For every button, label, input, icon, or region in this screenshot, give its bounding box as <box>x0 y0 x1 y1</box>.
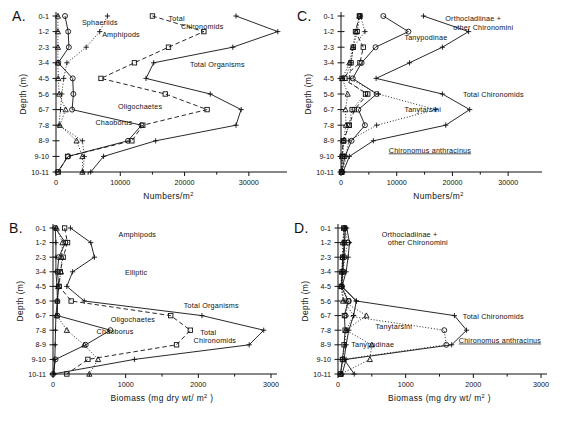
annotation-amphipods: Amphipods <box>118 230 156 239</box>
y-tick-label: 8-9 <box>36 340 46 349</box>
data-point <box>233 123 238 128</box>
x-tick-label: 0 <box>339 178 343 187</box>
data-point <box>208 91 213 96</box>
data-point <box>374 76 379 81</box>
series-line <box>91 16 278 172</box>
annotation-total-chironomids: Total Chironomids <box>463 312 524 321</box>
y-tick-label: 10-11 <box>31 168 49 177</box>
x-tick-label: 1000 <box>398 380 414 389</box>
y-tick-label: 7-8 <box>36 326 46 335</box>
panel-a: A.0-11-22-33-44-55-66-77-88-99-1010-11De… <box>0 0 293 213</box>
data-point <box>233 13 238 18</box>
series-line <box>59 228 190 374</box>
x-tick-label: 1000 <box>118 380 134 389</box>
panel-letter: A. <box>12 8 26 24</box>
series-line <box>342 228 467 374</box>
y-tick-label: 9-10 <box>320 152 334 161</box>
y-tick-label: 8-9 <box>324 136 334 145</box>
data-point <box>51 371 56 376</box>
x-axis-title: Numbers/m2 <box>413 191 463 201</box>
annotation-chaoborus: Chaoborus <box>97 327 134 336</box>
annotation-oligochaetes: Oligochaetes <box>111 315 156 324</box>
annotation-total-organisms: Total Organisms <box>190 60 245 69</box>
data-point <box>61 76 66 81</box>
y-tick-label: 6-7 <box>324 105 334 114</box>
y-axis-title: Depth (m) <box>300 281 310 322</box>
y-tick-label: 7-8 <box>324 121 334 130</box>
data-point <box>166 45 170 49</box>
data-point <box>92 255 97 260</box>
data-point <box>345 91 350 96</box>
annotation-chaoborus: Chaoborus <box>95 118 132 127</box>
y-tick-label: 5-6 <box>36 297 46 306</box>
annotation-tanytarsini: Tanytarsini <box>376 322 413 331</box>
y-tick-label: 10-11 <box>316 168 334 177</box>
x-tick-label: 20000 <box>442 178 462 187</box>
y-tick-label: 9-10 <box>32 355 46 364</box>
y-tick-label: 4-5 <box>39 74 49 83</box>
annotation-total-chironomids-2: Chironomids <box>194 336 237 345</box>
x-axis-title: Numbers/m2 <box>143 191 193 201</box>
y-tick-label: 8-9 <box>321 340 331 349</box>
y-tick-label: 3-4 <box>39 58 49 67</box>
series-oligochaetes <box>57 226 193 376</box>
y-tick-label: 6-7 <box>39 105 49 114</box>
panel-d: D.0-11-22-33-44-55-66-77-88-99-1010-11De… <box>293 210 587 427</box>
data-point <box>347 154 352 159</box>
annotation-amphipods: Amphipods <box>102 30 140 39</box>
data-point <box>421 13 426 18</box>
y-tick-label: 1-2 <box>39 27 49 36</box>
x-axis-title: Biomass (mg dry wt/ m2 ) <box>388 393 491 403</box>
data-point <box>275 29 280 34</box>
y-tick-label: 1-2 <box>324 27 334 36</box>
annotation-elliptic: Elliptic <box>125 268 148 277</box>
x-tick-label: 10000 <box>387 178 407 187</box>
y-tick-label: 8-9 <box>39 136 49 145</box>
panel-letter: D. <box>294 220 309 236</box>
annotation-other-chironomini: other Chironomini <box>388 238 448 247</box>
annotation-other-chironomini: other Chironomini <box>453 23 513 32</box>
y-tick-label: 0-1 <box>321 224 331 233</box>
annotation-oligochaetes: Oligochaetes <box>118 102 163 111</box>
y-tick-label: 2-3 <box>321 253 331 262</box>
x-tick-label: 10000 <box>110 178 130 187</box>
data-point <box>467 107 472 112</box>
data-point <box>153 138 158 143</box>
x-tick-label: 2000 <box>190 380 206 389</box>
data-point <box>351 313 356 318</box>
data-point <box>440 91 445 96</box>
x-tick-label: 3000 <box>533 380 549 389</box>
y-tick-label: 3-4 <box>36 267 46 276</box>
data-point <box>374 123 379 128</box>
panel-b: B.0-11-22-33-44-55-66-77-88-99-1010-11De… <box>0 210 293 427</box>
data-point <box>407 60 412 65</box>
data-point <box>230 45 235 50</box>
y-tick-label: 5-6 <box>321 297 331 306</box>
annotation-tanypodinae: Tanypodinae <box>404 33 447 42</box>
y-tick-label: 1-2 <box>36 238 46 247</box>
y-tick-label: 0-1 <box>36 224 46 233</box>
annotation-total-chironomids-2: Chironomids <box>181 22 224 31</box>
data-point <box>53 240 58 245</box>
data-point <box>239 107 244 112</box>
annotation-sphaeriids: Sphaeriids <box>82 18 118 27</box>
data-point <box>58 107 63 112</box>
data-point <box>362 29 367 34</box>
data-point <box>371 138 376 143</box>
annotation-total-organisms: Total Organisms <box>184 301 239 310</box>
series-line <box>57 228 99 374</box>
data-point <box>132 357 137 362</box>
y-tick-label: 5-6 <box>324 90 334 99</box>
series-chaoborus <box>54 225 101 376</box>
annotation-chironomus-anthracinus: Chironomus anthracinus <box>459 336 542 345</box>
y-tick-label: 7-8 <box>39 121 49 130</box>
x-tick-label: 0 <box>336 380 340 389</box>
y-tick-label: 0-1 <box>324 12 334 21</box>
series-line <box>58 16 207 172</box>
data-point <box>443 123 448 128</box>
y-tick-label: 4-5 <box>324 74 334 83</box>
annotation-tanytarsini: Tanytarsini <box>404 105 441 114</box>
y-tick-label: 9-10 <box>317 355 331 364</box>
y-tick-label: 2-3 <box>36 253 46 262</box>
y-tick-label: 2-3 <box>324 43 334 52</box>
